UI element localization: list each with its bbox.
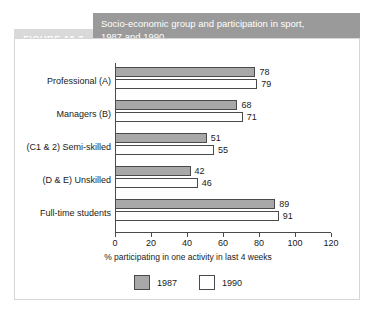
bar-value-label: 55 [218,145,228,155]
category-label: Full-time students [15,208,111,219]
x-tick [259,233,260,237]
bar-1990-1 [115,79,257,89]
figure-title-line-1: Socio-economic group and participation i… [101,18,360,31]
bar-chart-plot-area: Professional (A)Managers (B)(C1 & 2) Sem… [15,39,361,301]
bar-1987-5 [115,199,275,209]
x-tick-label: 20 [136,238,166,248]
x-tick-label: 40 [172,238,202,248]
bar-1990-3 [115,145,214,155]
legend-item-1987: 1987 [134,275,177,290]
legend-swatch-1990 [199,275,215,290]
x-tick-label: 80 [244,238,274,248]
figure-frame: Professional (A)Managers (B)(C1 & 2) Sem… [14,38,360,300]
legend-label-1990: 1990 [222,278,242,288]
category-label: Managers (B) [15,109,111,120]
bar-value-label: 79 [261,79,271,89]
bar-1990-2 [115,112,243,122]
bar-1987-2 [115,100,237,110]
legend-item-1990: 1990 [199,275,242,290]
bar-1987-4 [115,166,191,176]
legend-label-1987: 1987 [157,278,177,288]
bar-value-label: 51 [211,133,221,143]
x-tick [295,233,296,237]
x-tick-label: 120 [316,238,346,248]
legend-swatch-1987 [134,275,150,290]
bar-1990-5 [115,211,279,221]
x-tick [151,233,152,237]
bar-1987-1 [115,67,255,77]
x-tick-label: 0 [100,238,130,248]
x-tick [331,233,332,237]
bar-value-label: 78 [259,67,269,77]
bar-value-label: 89 [279,199,289,209]
x-tick [223,233,224,237]
bar-1990-4 [115,178,198,188]
chart-legend: 19871990 [15,275,361,290]
category-label: (C1 & 2) Semi-skilled [15,142,111,153]
bar-1987-3 [115,133,207,143]
x-tick [115,233,116,237]
bar-value-label: 46 [202,178,212,188]
bar-value-label: 91 [283,211,293,221]
bar-value-label: 42 [195,166,205,176]
category-label: (D & E) Unskilled [15,175,111,186]
category-label: Professional (A) [15,76,111,87]
bar-value-label: 68 [241,100,251,110]
x-tick-label: 100 [280,238,310,248]
x-tick [187,233,188,237]
x-tick-label: 60 [208,238,238,248]
x-axis-title: % participating in one activity in last … [15,252,361,262]
bar-value-label: 71 [247,112,257,122]
